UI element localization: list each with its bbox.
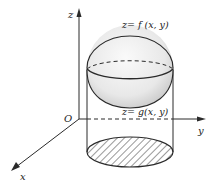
upper-surface-label: z= f (x, y) [121,19,169,30]
x-axis [16,119,79,167]
y-axis-label: y [197,125,204,136]
z-axis-label: z [67,9,74,20]
lower-surface-label: z= g(x, y) [121,106,169,117]
upper-surface-sphere [87,25,173,108]
origin-label: O [64,113,72,124]
x-axis-label: x [20,171,26,182]
solid-diagram: z O y x z= f (x, y) z= g(x, y) [0,0,213,184]
z-axis-arrowhead [77,8,82,17]
y-axis-arrowhead [197,117,206,122]
x-axis-arrowhead [11,162,20,171]
base-region-hatched [85,135,175,169]
